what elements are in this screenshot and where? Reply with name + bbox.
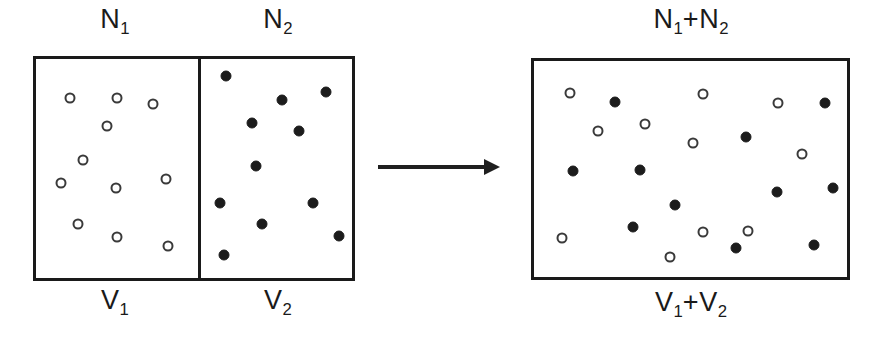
gas-particle-open bbox=[112, 93, 123, 104]
gas-particle-open bbox=[797, 149, 808, 160]
gas-particle-open bbox=[102, 121, 113, 132]
gas-particle-filled bbox=[277, 95, 288, 106]
gas-particle-open bbox=[640, 119, 651, 130]
label-v1: V1 bbox=[101, 285, 129, 316]
label-v1-plus-v2: V1+V2 bbox=[655, 287, 727, 318]
label-v1v2-subscript-1: 1 bbox=[674, 302, 683, 321]
gas-particle-filled bbox=[635, 165, 646, 176]
gas-particle-filled bbox=[670, 200, 681, 211]
gas-particle-filled bbox=[219, 250, 230, 261]
label-n2-base: N bbox=[263, 4, 283, 34]
gas-particle-filled bbox=[741, 132, 752, 143]
label-n1n2-subscript-2: 2 bbox=[719, 19, 728, 38]
gas-particle-filled bbox=[610, 97, 621, 108]
label-v1v2-subscript-2: 2 bbox=[718, 302, 727, 321]
label-n1n2-base: N bbox=[654, 4, 674, 34]
gas-particle-filled bbox=[820, 98, 831, 109]
gas-particle-open bbox=[78, 155, 89, 166]
gas-particle-filled bbox=[628, 222, 639, 233]
label-v1v2-plus: +V bbox=[683, 287, 718, 317]
label-n1: N1 bbox=[100, 4, 129, 35]
label-v2-subscript: 2 bbox=[283, 300, 292, 319]
gas-particle-open bbox=[688, 138, 699, 149]
gas-particle-open bbox=[743, 226, 754, 237]
gas-particle-filled bbox=[308, 198, 319, 209]
gas-particle-filled bbox=[294, 126, 305, 137]
label-v1-subscript: 1 bbox=[120, 300, 129, 319]
gas-particle-filled bbox=[334, 231, 345, 242]
label-v1-base: V bbox=[101, 285, 120, 315]
gas-particle-filled bbox=[215, 198, 226, 209]
label-n1n2-subscript-1: 1 bbox=[674, 19, 683, 38]
label-v1v2-base: V bbox=[655, 287, 674, 317]
transformation-arrow-icon bbox=[378, 157, 500, 177]
gas-particle-open bbox=[112, 232, 123, 243]
arrow-head bbox=[484, 159, 500, 175]
gas-particle-open bbox=[698, 227, 709, 238]
gas-particle-open bbox=[773, 98, 784, 109]
gas-particle-open bbox=[111, 183, 122, 194]
gas-particle-filled bbox=[809, 240, 820, 251]
gas-particle-open bbox=[65, 93, 76, 104]
left-container-box bbox=[33, 56, 355, 281]
gas-particle-open bbox=[161, 174, 172, 185]
gas-particle-filled bbox=[251, 161, 262, 172]
gas-particle-open bbox=[73, 219, 84, 230]
gas-particle-filled bbox=[731, 243, 742, 254]
gas-mixing-figure: N1 N2 V1 V2 N1+N2 V1+V2 bbox=[0, 0, 882, 356]
label-v2-base: V bbox=[264, 285, 283, 315]
gas-particle-filled bbox=[257, 219, 268, 230]
gas-particle-filled bbox=[247, 118, 258, 129]
arrow-shaft bbox=[378, 165, 487, 169]
gas-particle-filled bbox=[568, 166, 579, 177]
gas-particle-filled bbox=[321, 87, 332, 98]
label-n2-subscript: 2 bbox=[283, 19, 292, 38]
gas-particle-open bbox=[56, 178, 67, 189]
label-n1-plus-n2: N1+N2 bbox=[654, 4, 729, 35]
label-n1-base: N bbox=[100, 4, 120, 34]
gas-particle-filled bbox=[772, 187, 783, 198]
chamber-divider-partition bbox=[198, 56, 201, 281]
gas-particle-open bbox=[593, 126, 604, 137]
label-n1-subscript: 1 bbox=[120, 19, 129, 38]
gas-particle-open bbox=[565, 88, 576, 99]
gas-particle-open bbox=[698, 89, 709, 100]
gas-particle-filled bbox=[221, 71, 232, 82]
label-v2: V2 bbox=[264, 285, 292, 316]
merged-container-box bbox=[531, 58, 850, 280]
label-n2: N2 bbox=[263, 4, 292, 35]
gas-particle-open bbox=[163, 241, 174, 252]
gas-particle-open bbox=[665, 252, 676, 263]
gas-particle-filled bbox=[828, 183, 839, 194]
gas-particle-open bbox=[557, 233, 568, 244]
gas-particle-open bbox=[148, 99, 159, 110]
label-n1n2-plus: +N bbox=[683, 4, 719, 34]
